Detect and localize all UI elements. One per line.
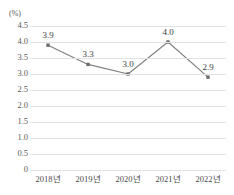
x-axis-tick-label: 2019년 (66, 174, 110, 185)
gridline (30, 138, 226, 139)
x-axis-tick-label: 2021년 (146, 174, 190, 185)
y-axis-tick-label: 3.5 (2, 53, 28, 62)
x-axis-tick-label: 2020년 (106, 174, 150, 185)
y-axis-tick-label: 2.5 (2, 85, 28, 94)
data-point-marker (206, 76, 209, 79)
x-axis: 2018년2019년2020년2021년2022년 (30, 174, 226, 190)
data-point-label: 3.9 (31, 30, 65, 40)
data-series-line (30, 26, 226, 170)
line-chart: (%) 4.54.03.53.02.52.01.51.00.50 2018년20… (0, 0, 234, 195)
gridline (30, 90, 226, 91)
data-point-label: 2.9 (191, 62, 225, 72)
gridline (30, 42, 226, 43)
data-point-label: 4.0 (151, 27, 185, 37)
gridline (30, 26, 226, 27)
plot-area (30, 26, 226, 170)
y-axis-tick-label: 1.0 (2, 133, 28, 142)
data-point-label: 3.3 (71, 49, 105, 59)
y-axis: 4.54.03.53.02.52.01.51.00.50 (0, 0, 28, 195)
gridline (30, 170, 226, 171)
gridline (30, 122, 226, 123)
x-axis-tick-label: 2022년 (186, 174, 230, 185)
y-axis-tick-label: 4.5 (2, 21, 28, 30)
x-axis-tick-label: 2018년 (26, 174, 70, 185)
y-axis-tick-label: 4.0 (2, 37, 28, 46)
y-axis-tick-label: 3.0 (2, 69, 28, 78)
data-point-marker (86, 63, 89, 66)
gridline (30, 106, 226, 107)
y-axis-tick-label: 0.5 (2, 149, 28, 158)
data-point-label: 3.0 (111, 59, 145, 69)
y-axis-tick-label: 0 (2, 165, 28, 174)
y-axis-tick-label: 1.5 (2, 117, 28, 126)
y-axis-tick-label: 2.0 (2, 101, 28, 110)
gridline (30, 74, 226, 75)
gridline (30, 154, 226, 155)
data-point-marker (46, 44, 49, 47)
